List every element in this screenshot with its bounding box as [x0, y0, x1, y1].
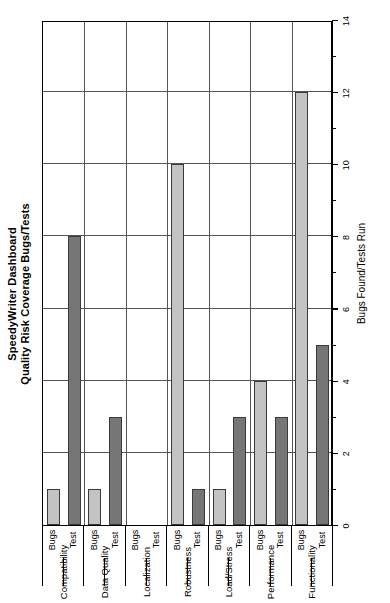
gridline: [43, 235, 331, 236]
category-label-load-stress: Load/Stress: [223, 524, 234, 603]
sub-axis-label-test: Test: [110, 526, 120, 554]
axis-tick-label: 14: [341, 16, 351, 26]
axis-tick-label: 12: [341, 88, 351, 98]
bar-test-performance: [275, 417, 288, 525]
gridline: [43, 308, 331, 309]
axis-tick-minor: [332, 200, 336, 201]
category-label-functionality: Functionality: [306, 524, 317, 603]
bar-bugs-load-stress: [213, 489, 226, 525]
axis-tick-major: [332, 453, 338, 454]
axis-tick-major: [332, 381, 338, 382]
bar-test-functionality: [316, 345, 329, 525]
category-label-performance: Performance: [264, 524, 275, 603]
axis-tick-minor: [332, 56, 336, 57]
category-tick: [125, 526, 126, 586]
sub-axis-label-bugs: Bugs: [255, 526, 265, 554]
sub-axis-label-test: Test: [192, 526, 202, 554]
axis-tick-major: [332, 308, 338, 309]
bar-bugs-data-quality: [88, 489, 101, 525]
plot-inner: [43, 22, 331, 525]
category-separator: [84, 22, 85, 525]
category-label-localization: Localization: [140, 524, 151, 603]
bar-test-robustness: [192, 489, 205, 525]
sub-axis-label-bugs: Bugs: [130, 526, 140, 554]
category-tick: [166, 526, 167, 586]
axis-tick-minor: [332, 128, 336, 129]
sub-axis-label-test: Test: [275, 526, 285, 554]
axis-tick-minor: [332, 273, 336, 274]
sub-axis-label-bugs: Bugs: [89, 526, 99, 554]
gridline: [43, 380, 331, 381]
category-label-data-quality: Data Quality: [99, 524, 110, 603]
axis-tick-minor: [332, 345, 336, 346]
axis-tick-label: 6: [341, 307, 351, 312]
bar-bugs-functionality: [295, 92, 308, 525]
axis-tick-label: 0: [341, 523, 351, 528]
bar-bugs-compatibility: [47, 489, 60, 525]
axis-tick-major: [332, 92, 338, 93]
axis-tick-label: 8: [341, 235, 351, 240]
axis-tick-minor: [332, 489, 336, 490]
category-tick: [249, 526, 250, 586]
category-axis-end-tick: [332, 526, 333, 586]
plot-area: [42, 21, 332, 526]
chart-title: SpeedyWriter Dashboard Quality Risk Cove…: [6, 0, 32, 588]
category-label-robustness: Robustness: [182, 524, 193, 603]
value-axis-line: [332, 21, 333, 526]
sub-axis-label-test: Test: [317, 526, 327, 554]
sub-axis-label-test: Test: [151, 526, 161, 554]
gridline: [43, 452, 331, 453]
chart-title-line1: SpeedyWriter Dashboard: [6, 0, 19, 588]
category-tick: [208, 526, 209, 586]
bar-bugs-performance: [254, 381, 267, 525]
category-separator: [292, 22, 293, 525]
chart-title-line2: Quality Risk Coverage Bugs/Tests: [19, 0, 32, 588]
category-separator: [126, 22, 127, 525]
category-separator: [209, 22, 210, 525]
bar-test-data-quality: [109, 417, 122, 525]
axis-tick-label: 2: [341, 451, 351, 456]
bar-test-compatibility: [68, 236, 81, 525]
axis-tick-major: [332, 20, 338, 21]
sub-axis-label-bugs: Bugs: [296, 526, 306, 554]
sub-axis-label-bugs: Bugs: [213, 526, 223, 554]
sub-axis-label-bugs: Bugs: [47, 526, 57, 554]
bar-bugs-robustness: [171, 164, 184, 525]
category-tick: [291, 526, 292, 586]
axis-tick-minor: [332, 417, 336, 418]
category-separator: [167, 22, 168, 525]
axis-tick-major: [332, 236, 338, 237]
category-axis: TestBugsFunctionalityTestBugsPerformance…: [42, 526, 332, 588]
gridline: [43, 163, 331, 164]
axis-tick-major: [332, 525, 338, 526]
bar-test-load-stress: [233, 417, 246, 525]
sub-axis-label-test: Test: [234, 526, 244, 554]
sub-axis-label-test: Test: [68, 526, 78, 554]
category-axis-end-tick: [42, 526, 43, 586]
sub-axis-label-bugs: Bugs: [172, 526, 182, 554]
value-axis-title: Bugs Found/Tests Run: [356, 21, 367, 526]
axis-tick-label: 4: [341, 379, 351, 384]
category-tick: [83, 526, 84, 586]
axis-tick-label: 10: [341, 160, 351, 170]
gridline: [43, 91, 331, 92]
category-separator: [250, 22, 251, 525]
axis-tick-major: [332, 164, 338, 165]
category-label-compatibility: Compatibility: [57, 524, 68, 603]
